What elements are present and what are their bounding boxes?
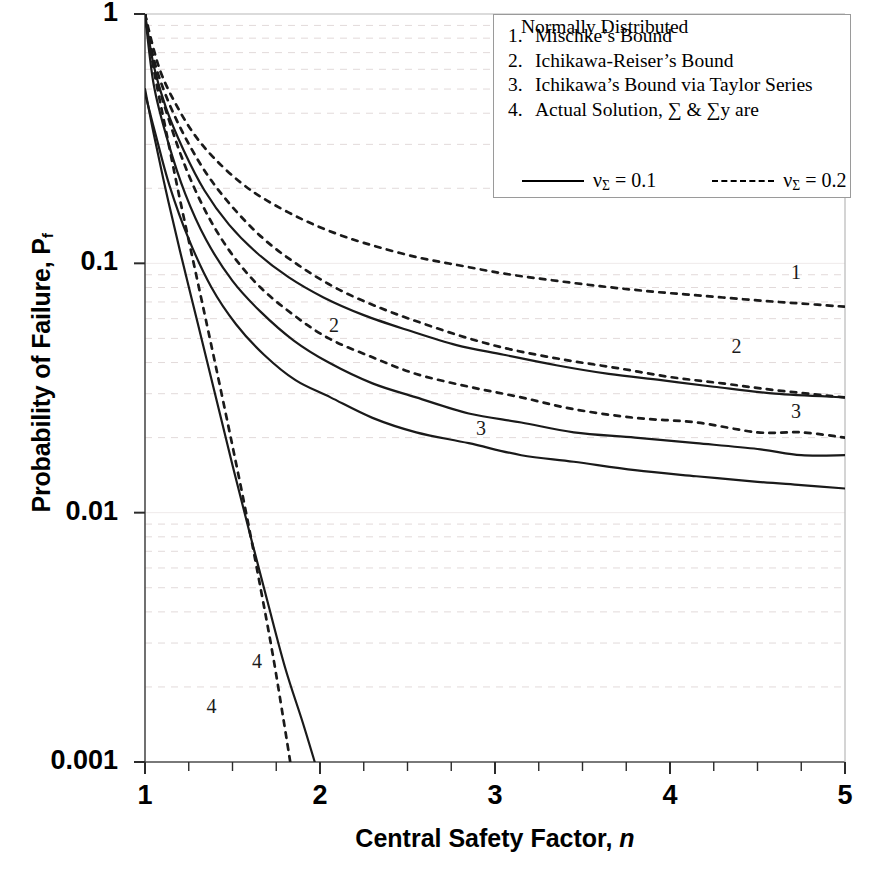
legend-item-number: 4. [508,98,535,123]
nu-symbol: ν [783,169,792,191]
legend-item: 2.Ichikawa-Reiser’s Bound [508,49,848,74]
curve-number-label: 1 [791,262,801,282]
chart-figure: Probability of Failure, Pf Central Safet… [0,0,869,874]
legend-key-dashed-label: νΣ = 0.2 [783,169,846,194]
curve-number-label: 3 [791,401,801,421]
legend-item: 1.Mischke’s Bound [508,24,848,49]
legend-item-list: 1.Mischke’s Bound2.Ichikawa-Reiser’s Bou… [508,24,848,122]
legend-item-label: Actual Solution, ∑ & ∑y are [535,98,848,123]
sigma-subscript: Σ [602,178,610,193]
legend-key-solid-label: νΣ = 0.1 [593,169,656,194]
legend-item-number: 3. [508,73,535,98]
curve-number-label: 2 [329,315,339,335]
curve-number-label: 2 [732,336,742,356]
dashed-value: = 0.2 [800,169,846,191]
nu-symbol: ν [593,169,602,191]
legend-item: 3.Ichikawa’s Bound via Taylor Series [508,73,848,98]
solid-value: = 0.1 [610,169,656,191]
solid-line-icon [522,180,584,182]
legend-key-dashed: νΣ = 0.2 [712,169,846,194]
legend-item-label: Ichikawa-Reiser’s Bound [535,49,848,74]
legend-item-number: 1. [508,24,535,49]
dashed-line-icon [712,180,774,182]
legend-item-number: 2. [508,49,535,74]
legend-item-label: Mischke’s Bound [535,24,848,49]
curve-number-label: 4 [252,651,262,671]
legend-item-label: Ichikawa’s Bound via Taylor Series [535,73,848,98]
legend-item: 4.Actual Solution, ∑ & ∑y are [508,98,848,123]
legend-key-solid: νΣ = 0.1 [522,169,656,194]
legend-line-style-key: νΣ = 0.1 νΣ = 0.2 [494,169,852,194]
curve-number-label: 3 [476,418,486,438]
legend-box: 1.Mischke’s Bound2.Ichikawa-Reiser’s Bou… [493,14,851,198]
curve-number-label: 4 [207,696,217,716]
series-curve [145,14,290,762]
